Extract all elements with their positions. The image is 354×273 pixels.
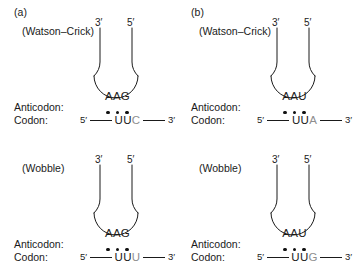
codon-five-prime-label-c: 5′ (80, 251, 87, 262)
codon-five-prime-label-a: 5′ (80, 114, 87, 125)
codon-row-label-a: Codon: (14, 114, 48, 126)
codon-base: U (123, 251, 132, 263)
codon-base-wobble: U (132, 251, 141, 263)
codon-three-prime-label-d: 3′ (345, 251, 352, 262)
codon-base: U (123, 114, 132, 126)
codon-base: U (115, 114, 124, 126)
codon-row-label-d: Codon: (191, 251, 225, 263)
codon-bases-c: UUU (115, 251, 141, 263)
anticodon-row-label-c: Anticodon: (14, 238, 64, 250)
codon-strand-b: 5′ UUA 3′ (257, 112, 352, 127)
codon-row-label-c: Codon: (14, 251, 48, 263)
strand-line-left (267, 120, 290, 121)
pairing-type-label-c: (Wobble) (22, 162, 64, 174)
codon-strand-c: 5′ UUU 3′ (80, 249, 175, 264)
codon-base: U (292, 114, 301, 126)
codon-bases-d: UUG (291, 251, 317, 263)
strand-line-left (90, 120, 113, 121)
codon-base-wobble: C (132, 114, 141, 126)
anticodon-row-label-d: Anticodon: (191, 238, 241, 250)
strand-line-right (143, 257, 166, 258)
pairing-type-label-d: (Wobble) (199, 162, 241, 174)
codon-three-prime-label-c: 3′ (168, 251, 175, 262)
panel-letter-b: (b) (191, 6, 204, 18)
codon-strand-a: 5′ UUC 3′ (80, 112, 175, 127)
codon-bases-a: UUC (115, 114, 141, 126)
strand-line-right (320, 120, 343, 121)
codon-three-prime-label-a: 3′ (168, 114, 175, 125)
codon-five-prime-label-b: 5′ (257, 114, 264, 125)
panel-a: (a) (Watson–Crick) 3′ 5′ AAG Anticodon: … (0, 0, 177, 136)
anticodon-row-label-b: Anticodon: (191, 101, 241, 113)
anticodon-row-label-a: Anticodon: (14, 101, 64, 113)
codon-base-wobble: A (309, 114, 317, 126)
panel-b-wobble: (Wobble) 3′ 5′ AAU Anticodon: Codon: 5′ … (177, 137, 354, 273)
codon-base: U (115, 251, 124, 263)
strand-line-left (90, 257, 113, 258)
anticodon-sequence-a: AAG (105, 90, 130, 102)
codon-base-wobble: G (308, 251, 317, 263)
panel-a-wobble: (Wobble) 3′ 5′ AAG Anticodon: Codon: 5′ … (0, 137, 177, 273)
codon-five-prime-label-d: 5′ (257, 251, 264, 262)
strand-line-left (267, 257, 289, 258)
strand-line-right (143, 120, 166, 121)
panel-letter-a: (a) (14, 6, 27, 18)
codon-anticodon-figure: (a) (Watson–Crick) 3′ 5′ AAG Anticodon: … (0, 0, 354, 273)
codon-three-prime-label-b: 3′ (345, 114, 352, 125)
panel-b: (b) (Watson–Crick) 3′ 5′ AAU Anticodon: … (177, 0, 354, 136)
codon-row-label-b: Codon: (191, 114, 225, 126)
codon-base: U (291, 251, 300, 263)
anticodon-sequence-c: AAG (105, 227, 130, 239)
anticodon-sequence-b: AAU (282, 90, 307, 102)
anticodon-sequence-d: AAU (282, 227, 307, 239)
codon-bases-b: UUA (292, 114, 317, 126)
strand-line-right (320, 257, 342, 258)
codon-base: U (301, 114, 310, 126)
codon-strand-d: 5′ UUG 3′ (257, 249, 352, 264)
